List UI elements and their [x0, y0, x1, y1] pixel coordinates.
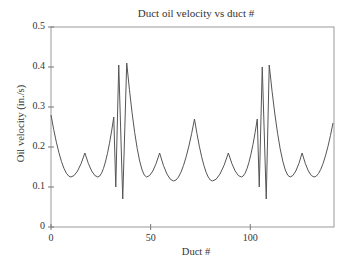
plot-area	[0, 0, 346, 270]
y-tick-label: 0.5	[33, 20, 46, 31]
y-tick-label: 0.2	[33, 140, 46, 151]
y-tick-label: 0.3	[33, 100, 46, 111]
y-tick-label: 0.1	[33, 180, 46, 191]
y-tick-label: 0	[40, 220, 45, 231]
x-tick-label: 50	[139, 232, 163, 243]
x-tick-label: 100	[238, 232, 262, 243]
y-tick-label: 0.4	[33, 60, 46, 71]
velocity-line	[51, 63, 333, 199]
x-tick-label: 0	[39, 232, 63, 243]
